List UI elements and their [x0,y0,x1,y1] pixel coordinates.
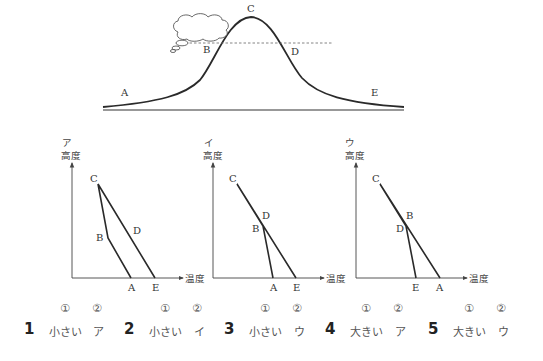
column-2-header: ② [496,302,506,315]
answer-choices: 1 ① ② 小さい ア 2 ① ② 小さい イ 3 ① ② 小さい ウ 4 ① … [0,302,543,342]
graph-a-title: ア [62,137,72,148]
label-D: D [291,46,299,57]
choice-answer-2: ア [395,323,406,339]
graph-a-path [98,184,155,278]
graph-a-xlabel: 温度 [185,273,205,284]
graph-a-label-B: B [96,232,103,243]
mountain-profile [103,17,404,107]
label-A: A [120,87,129,98]
column-2-header: ② [393,302,403,315]
choice-answer-1: 大きい [350,323,383,339]
graph-a: ア 高度 温度 C B D A E [61,137,205,293]
graph-i-xlabel: 温度 [326,273,346,284]
choice-number: 5 [428,320,438,338]
graph-i-ylabel: 高度 [203,150,223,161]
graph-u-xlabel: 温度 [469,273,489,284]
graph-a-label-D: D [133,225,141,236]
column-2-header: ② [192,302,202,315]
graph-i: イ 高度 温度 C B D A E [203,137,346,293]
choice-1[interactable]: 1 ① ② 小さい ア [24,302,124,342]
choice-answer-2: ウ [498,323,509,339]
graph-i-label-E: E [293,282,300,293]
graph-u: ウ 高度 温度 C D B E A [345,137,489,293]
graph-u-title: ウ [345,137,355,148]
graph-a-ylabel: 高度 [61,150,81,161]
choice-answer-2: ウ [294,323,305,339]
column-1-header: ① [464,302,474,315]
graph-u-label-C: C [372,173,380,184]
choice-number: 4 [325,320,335,338]
choice-answer-2: ア [93,323,104,339]
choice-number: 2 [124,320,134,338]
graph-u-ylabel: 高度 [345,150,365,161]
column-1-header: ① [260,302,270,315]
column-2-header: ② [92,302,102,315]
graph-u-path [380,184,440,278]
graph-a-label-C: C [90,173,98,184]
column-1-header: ① [361,302,371,315]
label-C: C [247,3,255,14]
choice-answer-2: イ [194,323,205,339]
choice-number: 3 [224,320,234,338]
graph-u-label-D: D [396,223,404,234]
graph-i-label-C: C [229,173,237,184]
graph-a-label-A: A [127,282,136,293]
choice-answer-1: 大きい [453,323,486,339]
graph-i-path [237,184,296,278]
choice-2[interactable]: 2 ① ② 小さい イ [124,302,224,342]
graph-u-label-B: B [406,210,413,221]
label-B: B [203,44,210,55]
column-1-header: ① [60,302,70,315]
choice-answer-1: 小さい [249,323,282,339]
mountain-figure: A B C D E [103,3,404,110]
graph-i-title: イ [204,137,214,148]
graph-i-label-D: D [262,210,270,221]
choice-number: 1 [24,320,34,338]
choice-4[interactable]: 4 ① ② 大きい ア [325,302,425,342]
column-2-header: ② [292,302,302,315]
choice-answer-1: 小さい [149,323,182,339]
choice-5[interactable]: 5 ① ② 大きい ウ [428,302,528,342]
graph-u-label-A: A [435,282,444,293]
label-E: E [371,87,378,98]
graph-u-label-E: E [412,282,419,293]
graph-i-label-A: A [269,282,278,293]
graph-a-label-E: E [152,282,159,293]
graph-i-label-B: B [252,223,259,234]
choice-answer-1: 小さい [49,323,82,339]
column-1-header: ① [160,302,170,315]
choice-3[interactable]: 3 ① ② 小さい ウ [224,302,324,342]
